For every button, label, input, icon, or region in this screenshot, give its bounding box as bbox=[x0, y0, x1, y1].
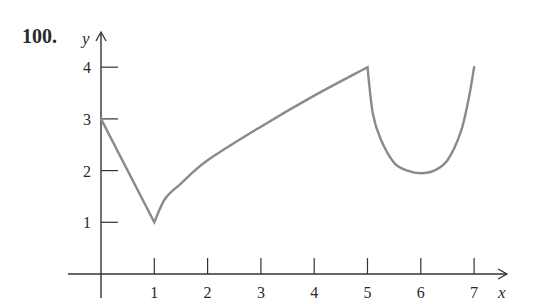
x-tick-label: 2 bbox=[204, 284, 212, 301]
x-tick-label: 4 bbox=[310, 284, 318, 301]
y-tick-label: 3 bbox=[83, 111, 91, 128]
ticks: 12345671234 bbox=[83, 59, 478, 301]
x-tick-label: 3 bbox=[257, 284, 265, 301]
problem-number: 100. bbox=[22, 25, 57, 47]
y-axis-label: y bbox=[80, 29, 90, 48]
y-tick-label: 4 bbox=[83, 59, 91, 76]
curve bbox=[101, 67, 474, 222]
axes bbox=[68, 32, 507, 298]
x-tick-label: 5 bbox=[364, 284, 372, 301]
x-tick-label: 1 bbox=[150, 284, 158, 301]
y-tick-label: 1 bbox=[83, 214, 91, 231]
function-graph: 100. 12345671234 y x bbox=[0, 0, 535, 304]
x-axis-label: x bbox=[497, 283, 506, 302]
x-tick-label: 7 bbox=[470, 284, 478, 301]
function-curve bbox=[101, 67, 474, 222]
y-tick-label: 2 bbox=[83, 163, 91, 180]
x-tick-label: 6 bbox=[417, 284, 425, 301]
